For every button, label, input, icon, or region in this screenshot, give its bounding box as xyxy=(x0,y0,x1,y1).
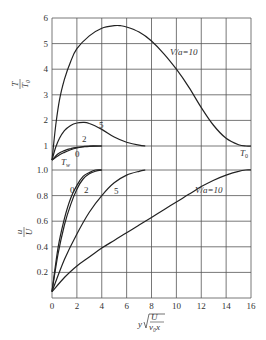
curve-lower-5 xyxy=(52,170,145,292)
y-tick-lower: 1.0 xyxy=(37,165,49,175)
y-tick-upper: 3 xyxy=(44,90,49,100)
label-lower-2: 2 xyxy=(84,185,89,195)
x-tick: 10 xyxy=(172,301,182,311)
svg-text:U: U xyxy=(151,312,158,322)
y-tick-lower: 0.2 xyxy=(37,267,48,277)
label-upper-5: 5 xyxy=(99,120,104,130)
y-tick-lower: 0.8 xyxy=(37,191,49,201)
y-tick-upper: 5 xyxy=(44,39,49,49)
axis-ticks: 1234560.20.40.60.81.00246810121416TT₀uU xyxy=(10,13,256,311)
svg-text:U: U xyxy=(24,228,34,235)
svg-text:y: y xyxy=(137,319,142,329)
x-tick: 12 xyxy=(197,301,206,311)
y-tick-lower: 0.6 xyxy=(37,216,49,226)
chart-canvas: 1234560.20.40.60.81.00246810121416TT₀uU … xyxy=(0,0,266,340)
x-tick: 14 xyxy=(222,301,232,311)
y-tick-upper: 1 xyxy=(44,141,49,151)
x-tick: 2 xyxy=(75,301,80,311)
svg-text:ν₀x: ν₀x xyxy=(149,322,160,332)
label-upper-tw: Tw xyxy=(61,157,70,168)
label-upper-2: 2 xyxy=(82,134,87,144)
y-tick-lower: 0.4 xyxy=(37,242,49,252)
y-tick-upper: 4 xyxy=(44,64,49,74)
label-upper-t0: T0 xyxy=(240,148,248,159)
x-tick: 0 xyxy=(50,301,55,311)
label-lower-0: 0 xyxy=(70,185,75,195)
label-lower-5: 5 xyxy=(114,186,119,196)
label-lower-va10: V/a=10 xyxy=(195,185,223,195)
x-tick: 8 xyxy=(149,301,154,311)
label-upper-0: 0 xyxy=(75,149,80,159)
label-upper-va10: V/a=10 xyxy=(170,47,198,57)
y-tick-upper: 6 xyxy=(44,13,49,23)
svg-text:T: T xyxy=(10,81,20,87)
x-tick: 6 xyxy=(124,301,129,311)
x-tick: 16 xyxy=(247,301,257,311)
x-axis-label: y U ν₀x xyxy=(137,312,165,332)
y-tick-upper: 2 xyxy=(44,115,49,125)
svg-text:T₀: T₀ xyxy=(20,80,30,88)
x-tick: 4 xyxy=(100,301,105,311)
svg-text:u: u xyxy=(14,229,24,234)
